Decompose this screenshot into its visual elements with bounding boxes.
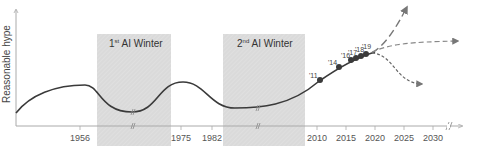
second-ai-winter-region <box>223 34 305 146</box>
x-tick-2010: 2010 <box>307 133 327 143</box>
x-tick-2030: 2030 <box>423 133 443 143</box>
x-tick-2025: 2025 <box>394 133 414 143</box>
marker-2011 <box>317 77 323 83</box>
ai-hype-cycle-diagram: 1st AI Winter 2nd AI Winter Reasonable h… <box>0 0 482 153</box>
label-2011: '11 <box>309 72 318 79</box>
label-2019: '19 <box>362 43 371 50</box>
y-axis-label: Reasonable hype <box>1 25 12 103</box>
label-2014: '14 <box>328 59 337 66</box>
projection-decline <box>372 53 422 84</box>
x-tick-2020: 2020 <box>365 133 385 143</box>
chart-canvas: 1st AI Winter 2nd AI Winter Reasonable h… <box>0 0 482 153</box>
x-tick-1956: 1956 <box>70 133 90 143</box>
x-tick-1982: 1982 <box>202 133 222 143</box>
x-tick-2015: 2015 <box>336 133 356 143</box>
x-tick-1975: 1975 <box>171 133 191 143</box>
first-ai-winter-region <box>97 34 171 146</box>
